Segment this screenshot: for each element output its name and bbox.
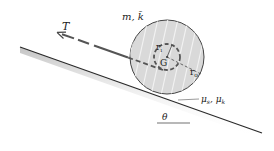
center-label: G xyxy=(160,58,167,68)
angle-label: θ xyxy=(162,112,168,122)
wheel-on-incline-diagram: T m, k̄ ri G ro μs, μk θ xyxy=(0,0,274,151)
mass-props-label: m, k̄ xyxy=(122,11,144,22)
friction-leader-line xyxy=(178,99,199,100)
friction-label: μs, μk xyxy=(201,94,226,105)
tension-label: T xyxy=(62,20,71,33)
wheel xyxy=(120,10,210,100)
